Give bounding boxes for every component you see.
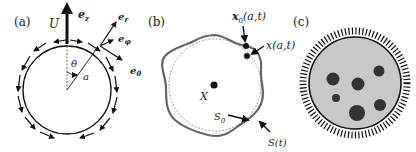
x0-label: x0(a,t) bbox=[231, 10, 266, 25]
panel-b: (b) X x0(a,t) x(a,t) S0 S(t) bbox=[148, 10, 295, 148]
panel-c: (c) bbox=[293, 15, 407, 135]
panel-b-label: (b) bbox=[148, 15, 165, 29]
s0-label: S0 bbox=[214, 111, 226, 125]
st-label: S(t) bbox=[268, 137, 287, 148]
st-arrow bbox=[260, 122, 270, 132]
inclusion bbox=[374, 66, 385, 77]
velocity-arrowhead-icon bbox=[61, 2, 73, 14]
inclusion bbox=[349, 105, 365, 121]
panel-a: (a) U ez θ a er eφ eθ bbox=[14, 2, 141, 138]
x-label: x(a,t) bbox=[266, 39, 295, 52]
panel-a-label: (a) bbox=[14, 15, 31, 29]
inclusion bbox=[374, 99, 386, 111]
material-point-x bbox=[244, 53, 250, 59]
etheta-label: eθ bbox=[130, 65, 141, 78]
theta-label: θ bbox=[71, 58, 77, 69]
etheta-vector bbox=[100, 46, 122, 60]
center-label: X bbox=[199, 90, 209, 103]
inclusion bbox=[332, 94, 340, 102]
velocity-label: U bbox=[49, 17, 60, 31]
inclusion bbox=[327, 73, 340, 86]
x0-arrow bbox=[243, 26, 245, 41]
inclusion bbox=[352, 78, 365, 91]
er-label: er bbox=[118, 11, 129, 24]
material-point-x0 bbox=[243, 43, 249, 49]
radius-label: a bbox=[83, 71, 89, 82]
center-point-x bbox=[211, 82, 218, 89]
ez-label: ez bbox=[78, 8, 90, 23]
theta-arc bbox=[67, 72, 77, 75]
panel-c-label: (c) bbox=[293, 15, 309, 29]
ephi-label: eφ bbox=[118, 33, 131, 46]
s0-arrow bbox=[228, 115, 248, 120]
